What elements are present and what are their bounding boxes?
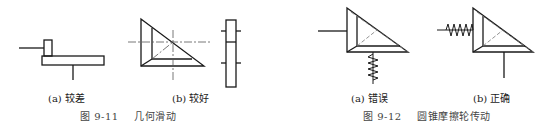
figure-number: 图 9-12: [363, 111, 402, 122]
apex-dash-icon: [483, 30, 503, 46]
subfigure-tag: (b): [473, 93, 487, 104]
figure-caption-9-11: 图 9-11 几何滑动: [80, 108, 176, 123]
slide-plate-icon: [42, 56, 104, 65]
subfigure-text: 较差: [65, 93, 85, 104]
subfigure-tag: (b): [172, 93, 186, 104]
cone-corner-icon: [141, 59, 152, 66]
apex-dash-icon: [152, 42, 173, 59]
fig-9-11a-drawing: [19, 40, 104, 80]
figure-number: 图 9-11: [80, 111, 119, 122]
figure-title: 圆锥摩擦轮传动: [417, 111, 491, 122]
cone-corner-icon: [347, 46, 357, 52]
subfigure-tag: (a): [351, 93, 365, 104]
cone-corner-icon: [473, 46, 483, 52]
fig-9-11b-drawing: [128, 19, 241, 87]
subfigure-tag: (a): [48, 93, 62, 104]
subfigure-text: 正确: [490, 93, 510, 104]
figure-caption-9-12: 图 9-12 圆锥摩擦轮传动: [363, 108, 491, 123]
apex-dash-icon: [357, 30, 377, 46]
subfigure-text: 较好: [189, 93, 209, 104]
figure-title: 几何滑动: [134, 111, 176, 122]
subfigure-text: 错误: [368, 93, 388, 104]
wheel-side-view-icon: [226, 20, 236, 87]
fig-9-12b-drawing: [437, 8, 533, 78]
subfigure-label-9-11b: (b) 较好: [172, 90, 209, 105]
subfigure-label-9-12b: (b) 正确: [473, 90, 510, 105]
small-block-icon: [44, 40, 52, 56]
subfigure-label-9-11a: (a) 较差: [48, 90, 85, 105]
subfigure-label-9-12a: (a) 错误: [351, 90, 388, 105]
fig-9-12a-drawing: [318, 8, 408, 84]
